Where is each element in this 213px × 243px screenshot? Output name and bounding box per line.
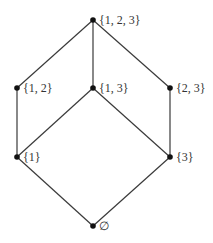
node-n23: {2, 3} — [167, 81, 205, 95]
node-label: ∅ — [99, 219, 109, 233]
node-label: {1, 2, 3} — [99, 13, 141, 27]
node-dot — [90, 85, 96, 91]
node-label: {1} — [23, 150, 41, 164]
node-n13: {1, 3} — [90, 81, 128, 95]
node-label: {1, 3} — [99, 81, 129, 95]
node-nempty: ∅ — [90, 219, 109, 233]
edges — [17, 20, 170, 226]
edge-n3-nempty — [93, 157, 170, 226]
edge-n123-n12 — [17, 20, 93, 88]
node-dot — [90, 17, 96, 23]
node-label: {2, 3} — [176, 81, 206, 95]
node-n3: {3} — [167, 150, 193, 164]
node-dot — [14, 154, 20, 160]
node-dot — [167, 154, 173, 160]
node-n12: {1, 2} — [14, 81, 52, 95]
node-dot — [90, 223, 96, 229]
edge-n1-nempty — [17, 157, 93, 226]
node-label: {3} — [176, 150, 194, 164]
hasse-diagram: {1, 2, 3}{1, 2}{1, 3}{2, 3}{1}{3}∅ — [0, 0, 213, 243]
nodes: {1, 2, 3}{1, 2}{1, 3}{2, 3}{1}{3}∅ — [14, 13, 205, 233]
edge-n13-n3 — [93, 88, 170, 157]
node-n1: {1} — [14, 150, 40, 164]
edge-n13-n1 — [17, 88, 93, 157]
node-dot — [14, 85, 20, 91]
edge-n123-n23 — [93, 20, 170, 88]
node-label: {1, 2} — [23, 81, 53, 95]
node-dot — [167, 85, 173, 91]
